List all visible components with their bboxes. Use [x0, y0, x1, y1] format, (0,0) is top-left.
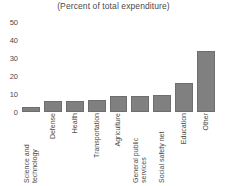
x-tick-label: Social safety net	[158, 113, 166, 183]
bar-slot	[175, 22, 193, 112]
bar[interactable]	[110, 96, 128, 112]
bar[interactable]	[131, 96, 149, 112]
y-tick-label: 0	[0, 108, 18, 117]
bar[interactable]	[44, 101, 62, 112]
y-tick-label: 10	[0, 90, 18, 99]
x-tick-label: Agriculture	[115, 113, 123, 146]
x-label-slot: Defense	[44, 113, 62, 186]
bar[interactable]	[175, 83, 193, 112]
x-label-slot: Education	[175, 113, 193, 186]
x-tick-label: Defense	[49, 113, 57, 139]
x-tick-label: General public services	[133, 113, 148, 183]
bar-slot	[197, 22, 215, 112]
chart-title: (Percent of total expenditure)	[0, 1, 227, 11]
x-label-slot: Health	[66, 113, 84, 186]
y-tick-label: 50	[0, 18, 18, 27]
x-axis-labels: Science and technologyDefenseHealthTrans…	[20, 113, 217, 186]
bar[interactable]	[22, 107, 40, 112]
bar[interactable]	[66, 101, 84, 112]
x-label-slot: Other	[197, 113, 215, 186]
y-tick-label: 20	[0, 72, 18, 81]
bar-chart: (Percent of total expenditure) 50 40 30 …	[0, 0, 227, 186]
x-label-slot: Transportation	[88, 113, 106, 186]
x-tick-label: Science and technology	[23, 113, 38, 183]
x-tick-label: Transportation	[93, 113, 101, 158]
x-tick-label: Other	[202, 113, 210, 131]
y-tick-label: 40	[0, 36, 18, 45]
x-tick-label: Education	[180, 113, 188, 144]
bar-slot	[153, 22, 171, 112]
x-label-slot: General public services	[131, 113, 149, 186]
bar[interactable]	[153, 95, 171, 112]
x-label-slot: Agriculture	[110, 113, 128, 186]
y-axis: 50 40 30 20 10 0	[0, 22, 18, 112]
bar-slot	[22, 22, 40, 112]
bars-container	[20, 22, 217, 112]
y-tick-label: 30	[0, 54, 18, 63]
bar[interactable]	[197, 51, 215, 112]
x-tick-label: Health	[71, 113, 79, 133]
x-label-slot: Science and technology	[22, 113, 40, 186]
bar[interactable]	[88, 100, 106, 112]
bar-slot	[66, 22, 84, 112]
bar-slot	[110, 22, 128, 112]
x-label-slot: Social safety net	[153, 113, 171, 186]
bar-slot	[88, 22, 106, 112]
bar-slot	[44, 22, 62, 112]
bar-slot	[131, 22, 149, 112]
